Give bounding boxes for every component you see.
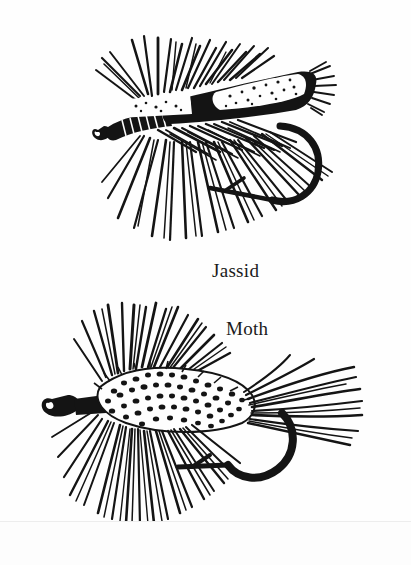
jassid-drawing bbox=[40, 22, 360, 262]
jassid-wing bbox=[112, 62, 336, 124]
page-bottom-margin bbox=[0, 522, 411, 565]
jassid-hackle-lower bbox=[102, 132, 332, 240]
moth-hook-eye bbox=[42, 395, 106, 417]
moth-tail-fibers bbox=[244, 355, 362, 445]
moth-drawing bbox=[30, 295, 380, 535]
figure-jassid bbox=[40, 22, 360, 262]
illustration-page: Jassid Moth bbox=[0, 0, 411, 565]
caption-jassid: Jassid bbox=[212, 261, 259, 280]
figure-moth bbox=[30, 295, 380, 535]
